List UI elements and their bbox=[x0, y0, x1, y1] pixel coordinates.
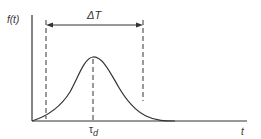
pulse-curve bbox=[32, 57, 175, 121]
x-axis-label: t bbox=[241, 126, 245, 137]
peak-time-label: τd bbox=[89, 124, 99, 138]
interval-label: ΔT bbox=[86, 9, 102, 21]
arrow-head-right-icon bbox=[136, 23, 143, 28]
arrow-head-left-icon bbox=[46, 23, 53, 28]
peak-time-label-sub: d bbox=[93, 128, 99, 138]
pulse-diagram: f(t) ΔT t τd bbox=[0, 0, 261, 139]
y-axis-label: f(t) bbox=[7, 14, 19, 25]
